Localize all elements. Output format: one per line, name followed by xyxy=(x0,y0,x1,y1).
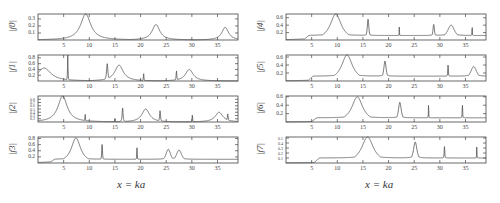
x-tick-label: 15 xyxy=(356,165,370,171)
x-tick-label: 35 xyxy=(458,165,472,171)
x-tick-label: 10 xyxy=(330,83,344,89)
x-tick-label: 30 xyxy=(433,42,447,48)
x-tick-label: 20 xyxy=(134,83,148,89)
axes-frame xyxy=(286,14,486,40)
x-tick-label: 25 xyxy=(407,124,421,130)
x-tick-label: 25 xyxy=(159,42,173,48)
subplot-f1: 51015202530350.20.40.60.8|f1| xyxy=(38,55,238,81)
x-tick-label: 10 xyxy=(330,124,344,130)
y-tick-label: 0.6 xyxy=(19,60,35,66)
y-axis-label: |f5| xyxy=(255,55,265,79)
plot-area xyxy=(286,137,486,163)
x-tick-label: 10 xyxy=(82,165,96,171)
x-tick-label: 15 xyxy=(108,165,122,171)
y-tick-label: 0.1 xyxy=(267,156,283,161)
y-tick-label: 0.8 xyxy=(19,135,35,141)
x-tick-label: 10 xyxy=(82,83,96,89)
data-series-line xyxy=(286,55,486,81)
y-tick-label: 0.1 xyxy=(19,29,35,35)
y-tick-label: 0.6 xyxy=(267,93,283,99)
x-tick-label: 35 xyxy=(210,42,224,48)
axes-frame xyxy=(38,14,238,40)
x-tick-label: 30 xyxy=(185,83,199,89)
plot-area xyxy=(38,137,238,163)
subplot-f5: 51015202530350.20.40.6|f5| xyxy=(286,55,486,81)
x-tick-label: 30 xyxy=(185,124,199,130)
y-axis-label: |f1| xyxy=(7,55,17,79)
x-tick-label: 10 xyxy=(82,42,96,48)
y-tick-label: 0.8 xyxy=(19,54,35,60)
x-tick-label: 25 xyxy=(407,83,421,89)
y-tick-label: 0.2 xyxy=(19,153,35,159)
y-tick-label: 0.2 xyxy=(19,72,35,78)
y-tick-label: 0.4 xyxy=(267,62,283,68)
x-tick-label: 5 xyxy=(57,124,71,130)
data-series-line xyxy=(286,137,486,163)
x-tick-label: 5 xyxy=(57,165,71,171)
x-tick-label: 15 xyxy=(108,42,122,48)
y-axis-label: |f6| xyxy=(255,96,265,120)
y-tick-label: 0.4 xyxy=(267,141,283,146)
plot-area xyxy=(286,96,486,122)
subplot-f7: 51015202530350.10.20.30.40.5|f7| xyxy=(286,137,486,163)
x-tick-label: 30 xyxy=(185,42,199,48)
data-series-line xyxy=(286,14,486,40)
y-tick-label: 0.2 xyxy=(267,151,283,156)
x-tick-label: 15 xyxy=(356,124,370,130)
y-tick-label: 0.4 xyxy=(267,102,283,108)
x-tick-label: 20 xyxy=(134,124,148,130)
x-tick-label: 35 xyxy=(458,42,472,48)
x-tick-label: 25 xyxy=(159,124,173,130)
y-axis-label: |f2| xyxy=(7,96,17,120)
y-axis-label: |f0| xyxy=(7,14,17,38)
y-tick-label: 0.2 xyxy=(267,29,283,35)
subplot-f3: 51015202530350.20.40.60.8|f3| xyxy=(38,137,238,163)
x-tick-label: 20 xyxy=(134,42,148,48)
x-tick-label: 5 xyxy=(305,42,319,48)
y-tick-label: 0.2 xyxy=(19,22,35,28)
x-tick-label: 20 xyxy=(382,83,396,89)
x-tick-label: 10 xyxy=(330,165,344,171)
plot-area xyxy=(286,55,486,81)
plot-area xyxy=(38,96,238,122)
y-tick-label: 0.4 xyxy=(267,22,283,28)
x-tick-label: 35 xyxy=(210,83,224,89)
x-axis-label-left: x = ka xyxy=(117,178,145,190)
x-tick-label: 25 xyxy=(159,165,173,171)
plot-area xyxy=(286,14,486,40)
plot-area xyxy=(38,55,238,81)
x-tick-label: 35 xyxy=(210,165,224,171)
x-tick-label: 35 xyxy=(210,124,224,130)
x-tick-label: 15 xyxy=(356,83,370,89)
x-axis-label-right: x = ka xyxy=(365,178,393,190)
data-series-line xyxy=(286,97,486,122)
x-tick-label: 5 xyxy=(305,165,319,171)
axes-frame xyxy=(286,137,486,163)
x-tick-label: 5 xyxy=(57,83,71,89)
x-tick-label: 20 xyxy=(382,165,396,171)
data-series-line xyxy=(38,96,238,122)
x-tick-label: 30 xyxy=(433,83,447,89)
y-tick-label: 0.8 xyxy=(19,97,35,102)
y-axis-label: |f7| xyxy=(255,137,265,161)
y-tick-label: 0.5 xyxy=(267,136,283,141)
data-series-line xyxy=(38,55,238,81)
y-tick-label: 0.6 xyxy=(267,14,283,20)
y-tick-label: 0.6 xyxy=(267,54,283,60)
data-series-line xyxy=(38,138,238,163)
subplot-f6: 51015202530350.20.40.6|f6| xyxy=(286,96,486,122)
plot-area xyxy=(38,14,238,40)
y-tick-label: 0.6 xyxy=(19,141,35,147)
y-tick-label: 0.2 xyxy=(267,110,283,116)
x-tick-label: 30 xyxy=(433,165,447,171)
x-tick-label: 35 xyxy=(458,83,472,89)
x-tick-label: 30 xyxy=(433,124,447,130)
y-axis-label: |f4| xyxy=(255,14,265,38)
x-tick-label: 15 xyxy=(108,83,122,89)
subplot-f0: 51015202530350.10.20.3|f0| xyxy=(38,14,238,40)
x-tick-label: 5 xyxy=(305,83,319,89)
y-tick-label: 0.4 xyxy=(19,66,35,72)
x-tick-label: 10 xyxy=(82,124,96,130)
x-tick-label: 30 xyxy=(185,165,199,171)
x-tick-label: 35 xyxy=(458,124,472,130)
